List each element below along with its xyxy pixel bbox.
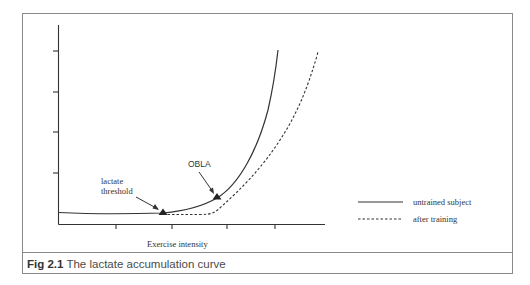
x-axis-label: Exercise intensity	[147, 239, 208, 249]
lactate-chart: lactate threshold OBLA Exercise intensit…	[0, 0, 530, 285]
annotation-obla-label: OBLA	[188, 159, 211, 169]
series-untrained-subject	[59, 50, 279, 214]
legend-trained-label: after training	[413, 214, 458, 224]
y-axis	[53, 25, 59, 225]
legend: untrained subject after training	[358, 197, 472, 224]
annotation-lactate-label: lactate	[101, 176, 123, 186]
series-after-training	[163, 52, 318, 215]
obla-arrow	[199, 172, 214, 194]
annotation-threshold-label: threshold	[101, 186, 133, 196]
legend-untrained-label: untrained subject	[413, 197, 472, 207]
x-axis	[59, 225, 326, 230]
lactate-threshold-arrow	[136, 197, 159, 210]
lactate-threshold-marker	[159, 209, 168, 216]
